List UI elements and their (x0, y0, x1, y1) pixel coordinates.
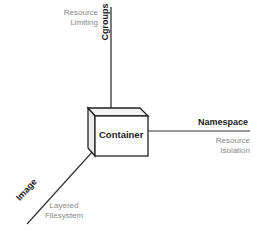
image-subtitle-line-2: Filesystem (42, 211, 86, 221)
namespace-title: Namespace (198, 117, 248, 127)
image-subtitle: Layered Filesystem (42, 201, 86, 221)
cgroups-subtitle-line-1: Resource (58, 8, 98, 18)
cgroups-title: Cgroups (100, 4, 110, 41)
container-label: Container (99, 129, 143, 140)
namespace-subtitle-line-1: Resource (205, 136, 250, 146)
cgroups-subtitle-line-2: Limiting (58, 18, 98, 28)
namespace-subtitle: Resource Isolation (205, 136, 250, 156)
cgroups-subtitle: Resource Limiting (58, 8, 98, 28)
image-subtitle-line-1: Layered (42, 201, 86, 211)
namespace-subtitle-line-2: Isolation (205, 146, 250, 156)
diagram-canvas (0, 0, 260, 231)
